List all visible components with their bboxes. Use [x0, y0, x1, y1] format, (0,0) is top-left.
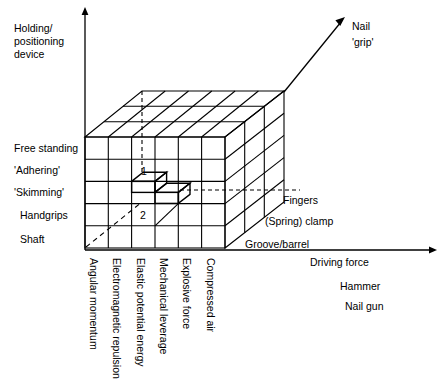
highlighted-cell-2-label: 2 — [140, 209, 146, 221]
y-category-handgrips: Handgrips — [20, 209, 68, 222]
x-category-compressed-air: Compressed air — [205, 258, 217, 332]
y-category-shaft: Shaft — [20, 233, 45, 246]
z-axis-title-line2: 'grip' — [352, 36, 374, 49]
z-axis-title-line1: Nail — [352, 20, 370, 33]
z-category-spring-clamp: (Spring) clamp — [265, 215, 333, 228]
y-category-free-standing: Free standing — [14, 142, 78, 155]
highlighted-cell-1 — [132, 172, 167, 192]
y-axis-title: Holding/ positioning device — [14, 22, 80, 61]
dashed-diagonal-guide — [86, 202, 142, 247]
x-category-elastic-potential-energy: Elastic potential energy — [135, 258, 147, 367]
y-category-adhering: 'Adhering' — [14, 164, 60, 177]
x-extra-nail-gun: Nail gun — [345, 300, 384, 313]
x-axis-title: Driving force — [310, 256, 369, 269]
x-extra-hammer: Hammer — [340, 280, 380, 293]
y-axis-title-line3: device — [14, 48, 80, 61]
z-axis-arrow — [284, 17, 345, 92]
x-category-angular-momentum: Angular momentum — [88, 258, 100, 350]
y-axis-title-line1: Holding/ — [14, 22, 80, 35]
morphological-chart-figure: Holding/ positioning device Free standin… — [0, 0, 444, 391]
x-category-explosive-force: Explosive force — [181, 258, 193, 329]
x-category-electromagnetic-repulsion: Electromagnetic repulsion — [111, 258, 123, 379]
y-axis-title-line2: positioning — [14, 35, 80, 48]
z-category-fingers: Fingers — [283, 194, 318, 207]
z-category-groove-barrel: Groove/barrel — [245, 238, 309, 251]
x-category-mechanical-leverage: Mechanical leverage — [158, 258, 170, 354]
highlighted-cell-1-label: 1 — [141, 165, 147, 177]
cell-2-diagonal — [155, 204, 178, 226]
highlighted-cell-2 — [155, 183, 190, 203]
y-category-skimming: 'Skimming' — [14, 186, 64, 199]
